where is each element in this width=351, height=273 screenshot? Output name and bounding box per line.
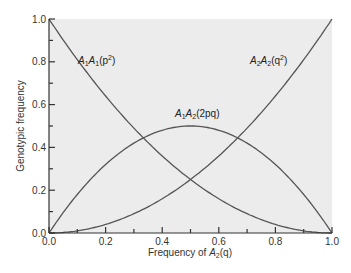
y-tick-label: 1.0 <box>32 14 46 25</box>
x-tick-label: 1.0 <box>325 236 339 247</box>
x-axis-label: Frequency of A2(q) <box>148 247 232 259</box>
x-tick-label: 0.2 <box>99 236 113 247</box>
y-tick-label: 0.8 <box>32 56 46 67</box>
x-tick-label: 0.8 <box>268 236 282 247</box>
y-tick-label: 0.4 <box>32 142 46 153</box>
x-tick-label: 0.0 <box>42 236 56 247</box>
x-tick-label: 0.6 <box>212 236 226 247</box>
y-tick-label: 0.2 <box>32 185 46 196</box>
label-a1a2: A1A2(2pq) <box>174 108 220 120</box>
y-tick-label: 0.6 <box>32 99 46 110</box>
y-axis-label: Genotypic frequency <box>15 80 26 172</box>
x-tick-label: 0.4 <box>155 236 169 247</box>
genotype-frequency-chart: 0.00.20.40.60.81.00.00.20.40.60.81.0 A1A… <box>0 0 351 273</box>
